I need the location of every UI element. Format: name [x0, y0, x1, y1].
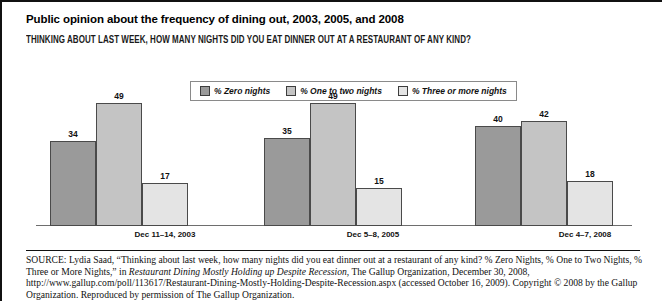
bar-group: 354915	[264, 76, 402, 226]
x-axis-category-label: Dec 4–7, 2008	[515, 230, 655, 240]
bar[interactable]	[50, 141, 96, 226]
bar-column[interactable]: 42	[521, 76, 567, 226]
bar[interactable]	[567, 181, 613, 226]
bar-group: 404218	[475, 76, 613, 226]
source-note: SOURCE: Lydia Saad, “Thinking about last…	[26, 254, 642, 300]
bar-column[interactable]: 15	[356, 76, 402, 226]
bar-column[interactable]: 35	[264, 76, 310, 226]
source-publication-title: Restaurant Dining Mostly Holding up Desp…	[129, 266, 347, 277]
bar-value-label: 49	[310, 91, 356, 101]
bar-value-label: 42	[521, 109, 567, 119]
bar-column[interactable]: 40	[475, 76, 521, 226]
bar-value-label: 40	[475, 114, 521, 124]
chart-bar-groups: 344917354915404218	[2, 76, 662, 226]
figure-panel: Public opinion about the frequency of di…	[0, 0, 662, 301]
source-label: SOURCE:	[26, 254, 67, 265]
bar[interactable]	[356, 188, 402, 226]
bar-value-label: 15	[356, 176, 402, 186]
bar-value-label: 49	[96, 91, 142, 101]
bar-value-label: 18	[567, 169, 613, 179]
x-axis-category-label: Dec 11–14, 2003	[95, 230, 235, 240]
bar-group: 344917	[50, 76, 188, 226]
bar-column[interactable]: 49	[96, 76, 142, 226]
bar-column[interactable]: 17	[142, 76, 188, 226]
bar-column[interactable]: 49	[310, 76, 356, 226]
bar[interactable]	[264, 138, 310, 226]
bar[interactable]	[310, 103, 356, 226]
bar[interactable]	[475, 126, 521, 226]
bar-value-label: 35	[264, 126, 310, 136]
x-axis-category-label: Dec 5–8, 2005	[303, 230, 443, 240]
source-divider	[26, 250, 640, 251]
bar[interactable]	[521, 121, 567, 226]
bar[interactable]	[142, 183, 188, 226]
bar-value-label: 17	[142, 171, 188, 181]
bar[interactable]	[96, 103, 142, 226]
bar-column[interactable]: 34	[50, 76, 96, 226]
bar-column[interactable]: 18	[567, 76, 613, 226]
bar-value-label: 34	[50, 129, 96, 139]
